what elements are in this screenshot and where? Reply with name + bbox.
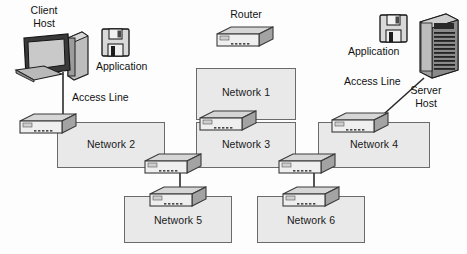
server-host-label-line1: Server [396,84,456,96]
floppy-disk-icon-left [101,28,131,58]
switch-network-6-icon [281,186,343,212]
desktop-computer-icon [14,30,92,78]
switch-network-5-icon [148,186,210,212]
switch-network-3-4-icon [277,153,339,179]
switch-network-2-icon [18,113,80,139]
switch-network-4-icon [330,112,392,138]
server-tower-icon [416,12,460,80]
router-label: Router [206,8,286,20]
router-icon [215,26,277,52]
network-diagram: Network 1 Network 2 Network 3 Network 4 … [0,0,467,254]
floppy-disk-icon-right [379,14,409,44]
application-label-right: Application [348,45,399,57]
application-label-left: Application [96,60,147,72]
server-host-label-line2: Host [396,97,456,109]
switch-network-2-3-icon [143,153,205,179]
client-host-label-line1: Client [14,4,74,16]
access-line-label-left: Access Line [72,91,129,103]
client-host-label-line2: Host [14,17,74,29]
switch-network-1-3-icon [198,110,260,136]
access-line-label-right: Access Line [344,75,401,87]
